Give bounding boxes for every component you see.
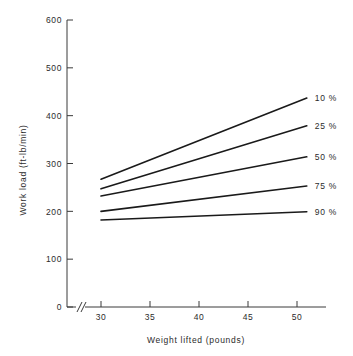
y-axis-ticks: 0100200300400500600	[46, 15, 73, 312]
y-tick-label-200: 200	[46, 207, 62, 217]
y-tick-label-400: 400	[46, 111, 62, 121]
series-label-25: 25 %	[315, 121, 337, 131]
x-axis-title: Weight lifted (pounds)	[147, 335, 245, 345]
series-label-90: 90 %	[315, 207, 337, 217]
series-label-50: 50 %	[315, 152, 337, 162]
y-axis-title: Work load (ft-lb/min)	[18, 124, 28, 215]
x-tick-label-40: 40	[194, 312, 205, 322]
series-line-90	[101, 212, 307, 220]
x-tick-label-30: 30	[96, 312, 107, 322]
series-line-25	[101, 126, 307, 189]
series-label-75: 75 %	[315, 181, 337, 191]
y-tick-label-100: 100	[46, 254, 62, 264]
chart-figure: 0100200300400500600 3035404550 10 %25 %5…	[0, 0, 353, 356]
y-tick-label-600: 600	[46, 15, 62, 25]
series-lines	[101, 98, 307, 220]
y-tick-label-300: 300	[46, 159, 62, 169]
y-tick-label-0: 0	[57, 302, 62, 312]
line-chart-svg: 0100200300400500600 3035404550 10 %25 %5…	[0, 0, 353, 356]
x-axis-ticks: 3035404550	[96, 301, 303, 322]
x-tick-label-50: 50	[292, 312, 303, 322]
series-line-10	[101, 98, 307, 179]
x-tick-label-35: 35	[145, 312, 156, 322]
x-tick-label-45: 45	[243, 312, 254, 322]
series-label-10: 10 %	[315, 93, 337, 103]
series-labels: 10 %25 %50 %75 %90 %	[315, 93, 337, 217]
y-tick-label-500: 500	[46, 63, 62, 73]
axes	[67, 20, 326, 312]
